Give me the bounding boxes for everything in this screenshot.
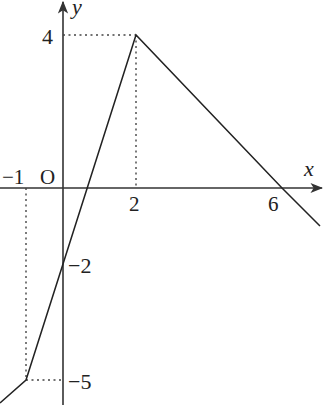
origin-label: O	[40, 165, 55, 189]
function-line	[0, 35, 320, 403]
y-tick-neg2: −2	[68, 253, 91, 278]
x-tick-6: 6	[268, 192, 279, 216]
x-tick-2: 2	[129, 192, 140, 216]
x-tick-neg1: −1	[2, 165, 24, 189]
y-axis-label: y	[70, 0, 82, 19]
y-tick-4: 4	[42, 24, 53, 49]
x-axis-label: x	[303, 156, 314, 181]
function-graph: y x O 4 −2 −5 −1 2 6	[0, 0, 333, 405]
y-tick-neg5: −5	[68, 369, 91, 394]
